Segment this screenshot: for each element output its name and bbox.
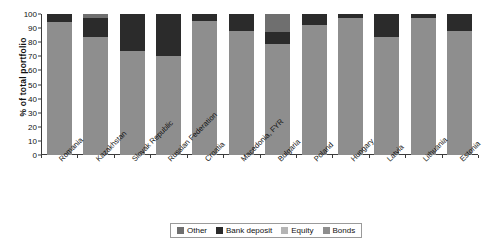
- bar-segment-bonds: [447, 31, 472, 155]
- bar-segment-bonds: [47, 22, 72, 155]
- bar-stack: [338, 14, 363, 155]
- x-axis-category-labels: RomaniaKazakhstanSlovak RepublicRussian …: [41, 157, 478, 219]
- legend-label: Equity: [291, 226, 313, 235]
- bar-segment-bonds: [229, 31, 254, 155]
- bar-stack: [374, 14, 399, 155]
- legend-item-other[interactable]: Other: [177, 226, 207, 235]
- bar-segment-bonds: [338, 18, 363, 155]
- bar-segment-bank-deposit: [229, 14, 254, 31]
- legend-label: Bonds: [333, 226, 356, 235]
- y-axis-title: % of total portfolio: [18, 7, 28, 147]
- bar-stack: [411, 14, 436, 155]
- bar-stack: [83, 14, 108, 155]
- legend-label: Bank deposit: [226, 226, 272, 235]
- bar-segment-bank-deposit: [411, 14, 436, 18]
- bar-stack: [47, 14, 72, 155]
- legend-swatch-icon: [216, 227, 223, 234]
- bar-segment-other: [265, 14, 290, 32]
- legend-item-bonds[interactable]: Bonds: [323, 226, 356, 235]
- legend-swatch-icon: [323, 227, 330, 234]
- legend-item-bank-deposit[interactable]: Bank deposit: [216, 226, 272, 235]
- bar-stack: [447, 14, 472, 155]
- bar-segment-bank-deposit: [192, 14, 217, 21]
- legend-swatch-icon: [281, 227, 288, 234]
- bar-segment-bank-deposit: [120, 14, 145, 51]
- bar-segment-bonds: [156, 56, 181, 155]
- bar-segment-bank-deposit: [338, 14, 363, 18]
- bar-segment-bank-deposit: [47, 14, 72, 22]
- bar-segment-bank-deposit: [265, 32, 290, 43]
- bar-segment-bonds: [83, 37, 108, 155]
- bar-segment-other: [83, 14, 108, 18]
- bar-segment-bank-deposit: [302, 14, 327, 25]
- legend-swatch-icon: [177, 227, 184, 234]
- bar-series-group: [41, 14, 478, 155]
- bar-segment-bank-deposit: [83, 18, 108, 36]
- bar-segment-bonds: [302, 25, 327, 155]
- bar-segment-bank-deposit: [156, 14, 181, 56]
- bar-stack: [302, 14, 327, 155]
- bar-segment-bonds: [411, 18, 436, 155]
- x-axis-tick-mark: [478, 155, 479, 158]
- plot-area: 0102030405060708090100: [41, 14, 478, 155]
- bar-segment-bank-deposit: [447, 14, 472, 31]
- legend-label: Other: [187, 226, 207, 235]
- chart-container: % of total portfolio 0102030405060708090…: [0, 0, 486, 251]
- bar-stack: [229, 14, 254, 155]
- chart-legend: OtherBank depositEquityBonds: [170, 223, 362, 238]
- bar-segment-bank-deposit: [374, 14, 399, 37]
- bar-segment-bonds: [374, 37, 399, 155]
- legend-item-equity[interactable]: Equity: [281, 226, 313, 235]
